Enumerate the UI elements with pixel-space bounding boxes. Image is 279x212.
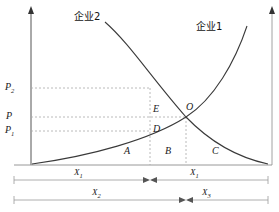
price-tick-p1-sub: 1 bbox=[11, 130, 14, 137]
span-label-x3-sub: 3 bbox=[208, 192, 211, 199]
span-bracket-row-1 bbox=[14, 176, 268, 184]
price-tick-p2-sub: 2 bbox=[11, 87, 14, 94]
point-label-d: D bbox=[153, 124, 160, 134]
economics-diagram-figure: 企业2 企业1 P2 P P1 O E D A B C X1 X1 X2 X3 bbox=[0, 0, 279, 212]
point-label-o: O bbox=[186, 102, 193, 112]
span-label-x3: X3 bbox=[202, 188, 211, 199]
price-tick-p1: P1 bbox=[5, 125, 14, 138]
price-reference-lines bbox=[31, 88, 186, 131]
region-label-b: B bbox=[165, 146, 171, 156]
curve-firm1 bbox=[32, 26, 247, 164]
span-label-x1: X1 bbox=[74, 168, 83, 179]
point-label-e: E bbox=[153, 104, 159, 114]
price-tick-p: P bbox=[6, 111, 12, 121]
curve-label-firm2: 企业2 bbox=[74, 12, 100, 22]
price-axis bbox=[28, 6, 34, 165]
region-label-a: A bbox=[124, 146, 130, 156]
span-label-x2-sub: 2 bbox=[98, 192, 101, 199]
span-label-x1-prime-sub: 1 bbox=[196, 172, 199, 179]
right-border-axis bbox=[269, 6, 275, 165]
price-tick-p-base: P bbox=[6, 110, 12, 121]
curve-label-firm1: 企业1 bbox=[196, 22, 222, 32]
span-label-x2: X2 bbox=[92, 188, 101, 199]
region-label-c: C bbox=[212, 146, 219, 156]
price-tick-p2: P2 bbox=[5, 82, 14, 95]
span-label-x1-prime: X1 bbox=[190, 168, 199, 179]
span-label-x1-sub: 1 bbox=[80, 172, 83, 179]
diagram-canvas bbox=[0, 0, 279, 212]
span-bracket-row-2 bbox=[14, 196, 268, 204]
